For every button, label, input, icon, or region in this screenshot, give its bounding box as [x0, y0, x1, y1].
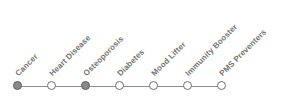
step-node-pms-preventers[interactable] — [217, 81, 226, 90]
step-label-mood-lifter: Mood Lifter — [150, 40, 188, 78]
step-node-cancer[interactable] — [13, 81, 22, 90]
step-node-osteoporosis[interactable] — [81, 81, 90, 90]
step-node-diabetes[interactable] — [115, 81, 124, 90]
stepper-widget: Cancer Heart Disease Osteoporosis Diabet… — [0, 0, 304, 112]
step-label-diabetes: Diabetes — [116, 47, 147, 78]
step-node-heart-disease[interactable] — [47, 81, 56, 90]
step-node-mood-lifter[interactable] — [149, 81, 158, 90]
step-node-immunity-booster[interactable] — [183, 81, 192, 90]
step-label-cancer: Cancer — [14, 52, 40, 78]
